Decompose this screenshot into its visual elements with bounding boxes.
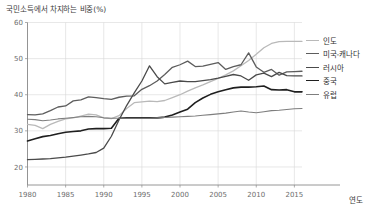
series-line-0 [28,41,303,128]
legend-item-label: 러시아 [323,62,343,73]
series-line-2 [28,66,303,160]
x-tick-label: 2015 [285,191,303,199]
legend-item-label: 인도 [323,35,337,46]
series-line-3 [28,86,303,141]
y-tick-label: 50 [14,55,23,63]
y-tick-label: 60 [14,19,23,27]
legend-swatch-line-icon [306,94,319,95]
chart-container: 국민소득에서 차지하는 비중(%) 2030405060 19801985199… [0,0,383,211]
axes [28,23,341,186]
x-tick-label: 2005 [209,191,227,199]
legend-item-0[interactable]: 인도 [306,36,360,45]
legend-swatch-line-icon [306,53,319,54]
x-tick-label: 1980 [19,191,37,199]
x-tick-label: 2010 [247,191,265,199]
x-axis-ticks: 19801985199019952000200520102015 [19,185,304,199]
x-axis-label: 연도 [349,196,363,205]
legend-item-2[interactable]: 러시아 [306,63,360,72]
legend-item-label: 중국 [323,75,337,86]
legend-item-1[interactable]: 미국-캐나다 [306,49,360,58]
legend-item-label: 유럽 [323,89,337,100]
legend-item-label: 미국-캐나다 [323,48,360,59]
y-tick-label: 20 [14,164,23,172]
data-series [28,41,303,159]
line-chart-plot: 2030405060 19801985199019952000200520102… [0,0,383,211]
y-tick-label: 30 [14,127,23,135]
x-tick-label: 1985 [57,191,75,199]
legend-item-4[interactable]: 유럽 [306,90,360,99]
chart-legend: 인도미국-캐나다러시아중국유럽 [306,36,360,99]
x-tick-label: 1990 [95,191,113,199]
legend-item-3[interactable]: 중국 [306,76,360,85]
y-tick-label: 40 [14,91,23,99]
x-tick-label: 1995 [133,191,151,199]
legend-swatch-line-icon [306,80,319,81]
legend-swatch-line-icon [306,67,319,68]
x-tick-label: 2000 [171,191,189,199]
y-axis-ticks: 2030405060 [14,19,27,171]
legend-swatch-line-icon [306,40,319,41]
